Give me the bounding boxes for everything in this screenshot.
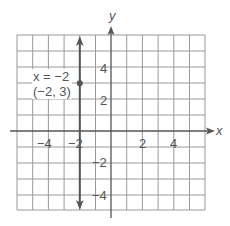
y-axis-label: y bbox=[109, 9, 116, 22]
y-tick-2: 2 bbox=[100, 94, 107, 107]
y-tick-neg4: −4 bbox=[92, 189, 107, 202]
x-axis-label: x bbox=[216, 124, 223, 137]
x-tick-neg2: −2 bbox=[68, 137, 83, 150]
vertical-line-x-eq-neg2 bbox=[76, 36, 84, 210]
equation-label: x = −2 bbox=[33, 69, 71, 84]
y-tick-4: 4 bbox=[100, 62, 107, 75]
line-annotation: x = −2 (−2, 3) bbox=[32, 69, 72, 99]
point-label: (−2, 3) bbox=[33, 84, 71, 99]
x-tick-2: 2 bbox=[139, 137, 146, 150]
y-tick-neg2: −2 bbox=[92, 156, 107, 169]
point-neg2-3 bbox=[77, 80, 83, 86]
x-axis bbox=[10, 128, 215, 135]
x-tick-neg4: −4 bbox=[37, 137, 52, 150]
graph-canvas bbox=[0, 0, 230, 226]
coordinate-plane-graph: y x x = −2 (−2, 3) −4 −2 2 4 4 2 −2 −4 bbox=[0, 0, 230, 226]
x-tick-4: 4 bbox=[170, 137, 177, 150]
y-axis bbox=[108, 26, 115, 218]
